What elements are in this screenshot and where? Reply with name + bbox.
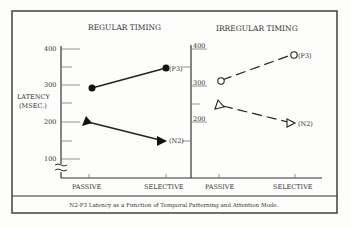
irregular-n2-passive-point xyxy=(215,100,224,109)
axis-break-icon xyxy=(55,164,67,171)
x-label-right-selective: SELECTIVE xyxy=(273,183,313,191)
irregular-p3-selective-point xyxy=(291,52,297,58)
right-y-ticks xyxy=(182,49,207,141)
tick-label-300: 300 xyxy=(44,81,56,89)
right-tick-label-200: 200 xyxy=(193,115,205,123)
x-label-left-passive: PASSIVE xyxy=(72,183,102,191)
regular-p3-line xyxy=(92,68,166,88)
irregular-n2-line xyxy=(223,106,288,122)
x-label-left-selective: SELECTIVE xyxy=(144,183,184,191)
y-axis-unit: (MSEC.) xyxy=(19,102,47,110)
x-label-right-passive: PASSIVE xyxy=(205,183,235,191)
irregular-n2-label: (N2) xyxy=(298,120,313,128)
irregular-p3-passive-point xyxy=(218,78,224,84)
tick-label-100: 100 xyxy=(44,155,56,163)
right-tick-label-300: 300 xyxy=(193,79,205,87)
tick-label-400: 400 xyxy=(44,45,56,53)
right-tick-label-400: 400 xyxy=(193,42,205,50)
regular-n2-label: (N2) xyxy=(169,137,184,145)
irregular-n2-selective-point xyxy=(287,119,295,127)
y-axis-label: LATENCY xyxy=(17,93,50,101)
regular-n2-selective-point xyxy=(157,136,167,146)
tick-label-200: 200 xyxy=(44,118,56,126)
irregular-p3-line xyxy=(222,55,291,80)
figure-caption: N2-P3 Latency as a Function of Temporal … xyxy=(69,202,279,209)
regular-p3-label: (P3) xyxy=(169,65,183,73)
left-y-ticks xyxy=(61,49,80,159)
latency-figure: REGULAR TIMING IRREGULAR TIMING LATENCY … xyxy=(0,0,351,228)
left-panel-title: REGULAR TIMING xyxy=(88,23,161,32)
irregular-p3-label: (P3) xyxy=(298,52,312,60)
right-panel-title: IRREGULAR TIMING xyxy=(216,24,298,33)
regular-p3-passive-point xyxy=(89,85,96,92)
regular-n2-passive-point xyxy=(82,116,92,126)
regular-n2-line xyxy=(88,122,160,140)
